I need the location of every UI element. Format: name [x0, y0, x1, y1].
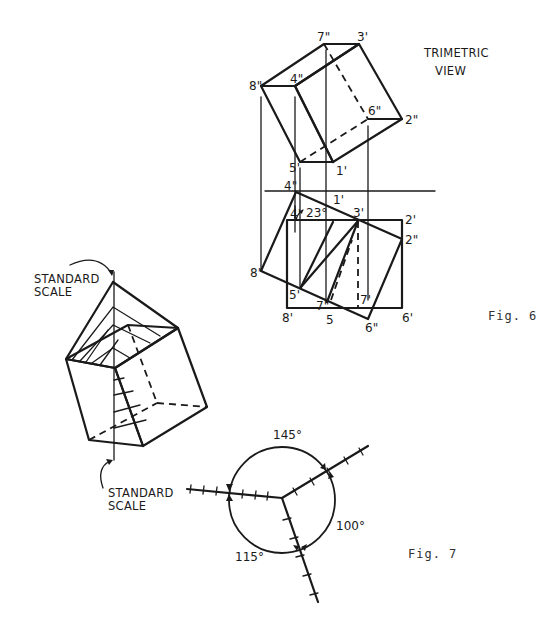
- label-4dd-lower: 4": [284, 179, 297, 193]
- label-23deg: 23°: [306, 206, 327, 220]
- label-1p: 1': [336, 164, 347, 178]
- trimetric-title-line2: VIEW: [435, 64, 466, 78]
- angle-label-145: 145°: [273, 428, 302, 442]
- fig6-upper-view: [261, 44, 402, 162]
- hidden-edge-7-6: [324, 44, 368, 119]
- label-2p: 2': [405, 213, 416, 227]
- cube-right-face: [115, 328, 207, 446]
- arrowhead-icon: [226, 484, 233, 491]
- label-8dd-lower: 8": [250, 266, 263, 280]
- angle-label-100: 100°: [336, 519, 365, 533]
- prism-edge-4-1: [295, 86, 333, 162]
- label-7dd-lower: 7": [316, 299, 329, 313]
- fig6-lower-view: [261, 192, 402, 319]
- down-axis-ticks: [283, 518, 318, 595]
- label-2dd: 2": [405, 113, 418, 127]
- bottom-scale-label-line1: STANDARD: [108, 486, 174, 500]
- fig6-caption: Fig. 6: [488, 309, 537, 323]
- label-5p-lower: 5': [289, 288, 300, 302]
- prism-left-edge: [261, 86, 333, 162]
- label-3p: 3': [357, 30, 368, 44]
- arrowhead-icon: [226, 494, 233, 501]
- label-5p: 5': [289, 161, 300, 175]
- down-axis: [282, 498, 318, 602]
- label-7dd: 7": [317, 30, 330, 44]
- line-7-3: [327, 221, 358, 302]
- cube-left-face: [66, 359, 143, 446]
- label-4p: 4': [290, 207, 301, 221]
- label-8dd: 8": [249, 79, 262, 93]
- isometric-cube: [66, 260, 207, 488]
- label-8p: 8': [282, 311, 293, 325]
- prism-front-face: [295, 44, 402, 162]
- label-6dd: 6": [368, 104, 381, 118]
- technical-drawing-canvas: 7" 3' 8" 4" 6" 2" 5' 1' 4" 4' 23° 1' 3' …: [0, 0, 542, 635]
- fig7-caption: Fig. 7: [408, 547, 457, 561]
- hidden-edge-5-6: [300, 119, 368, 162]
- fig6-lower-labels: 4" 4' 23° 1' 3' 2' 2" 8" 5' 7" 7' 8' 5 6…: [250, 179, 418, 335]
- angle-label-115: 115°: [235, 550, 264, 564]
- label-5: 5: [326, 313, 334, 327]
- top-scale-label-line1: STANDARD: [34, 272, 100, 286]
- label-6dd-lower: 6": [365, 321, 378, 335]
- label-1p-lower: 1': [333, 193, 344, 207]
- label-6p: 6': [402, 311, 413, 325]
- label-7p: 7': [360, 293, 371, 307]
- bottom-scale-leader: [101, 461, 110, 488]
- bottom-scale-label-line2: SCALE: [108, 499, 146, 513]
- trimetric-title-line1: TRIMETRIC: [423, 46, 489, 60]
- top-scale-label-line2: SCALE: [34, 285, 72, 299]
- label-2dd-lower: 2": [405, 233, 418, 247]
- label-3p-lower: 3': [353, 206, 364, 220]
- label-4dd: 4": [290, 72, 303, 86]
